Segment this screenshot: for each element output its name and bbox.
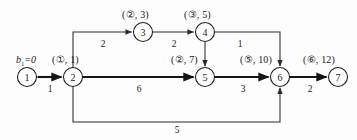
label-node-5: (②, 7) [171,55,198,65]
node-3-number: 3 [141,27,146,38]
node-5-number: 5 [203,72,208,83]
graph-canvas: 1 2 3 4 5 6 7 1 2 2 1 6 3 2 5 [0,0,357,140]
weight-edge-6-7: 2 [308,84,313,94]
edge-2-6 [73,87,280,123]
node-6-number: 6 [278,72,283,83]
node-4-number: 4 [203,27,208,38]
node-7-number: 7 [336,72,341,83]
label-node-2: (①, 1) [52,55,79,65]
source-value: =0 [24,54,36,65]
label-node-3: (②, 3) [122,10,149,20]
label-node-6: (⑤, 10) [240,55,272,65]
weight-edge-4-6: 1 [238,39,243,49]
weight-edge-2-5: 6 [137,84,142,94]
source-node-annotation: b1=0 [16,54,36,67]
weight-edge-2-3: 2 [101,39,106,49]
weight-edge-5-6: 3 [241,84,246,94]
weight-edge-3-4: 2 [172,39,177,49]
label-node-4: (③, 5) [184,10,211,20]
node-2-number: 2 [71,72,76,83]
weight-edge-1-2: 1 [48,84,53,94]
weight-edge-2-6: 5 [175,125,180,135]
network-diagram: 1 2 3 4 5 6 7 1 2 2 1 6 3 2 5 b1=0 (①, 1… [0,0,357,140]
label-node-7: (⑥, 12) [303,55,335,65]
node-1-number: 1 [25,72,30,83]
edge-2-3 [73,32,132,68]
